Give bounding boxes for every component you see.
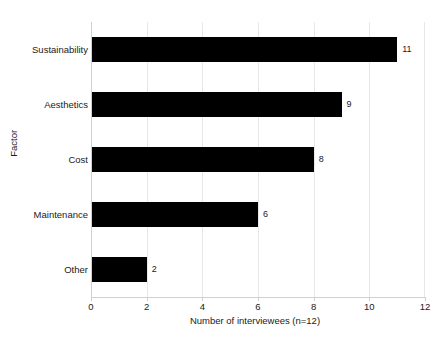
y-tick-label-sustainability: Sustainability — [32, 45, 88, 55]
y-tick-label-other: Other — [64, 265, 88, 275]
x-tick-label-4: 4 — [200, 302, 205, 312]
x-tick-label-8: 8 — [311, 302, 316, 312]
y-axis-tick-labels: Sustainability Aesthetics Cost Maintenan… — [0, 22, 444, 297]
y-tick-label-maintenance: Maintenance — [34, 210, 88, 220]
x-tick-label-2: 2 — [144, 302, 149, 312]
bar-chart: 11 9 8 6 2 Sustainability Aesthetics Cos… — [0, 0, 444, 337]
x-axis-title: Number of interviewees (n=12) — [0, 316, 444, 326]
x-tick-label-6: 6 — [255, 302, 260, 312]
y-axis-title: Factor — [9, 133, 19, 157]
x-tick-label-0: 0 — [88, 302, 93, 312]
x-tick-label-12: 12 — [420, 302, 431, 312]
x-tick-label-10: 10 — [364, 302, 375, 312]
x-axis-title-text: Number of interviewees (n=12) — [190, 315, 320, 326]
y-tick-label-aesthetics: Aesthetics — [44, 100, 88, 110]
y-tick-label-cost: Cost — [68, 155, 88, 165]
